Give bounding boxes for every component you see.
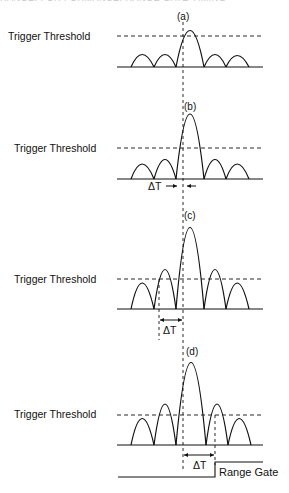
main-lobe <box>176 114 204 179</box>
lobe <box>131 419 154 446</box>
delta-t-label-d: ΔT <box>193 459 207 471</box>
lobe <box>226 164 249 179</box>
panel-a <box>117 31 263 68</box>
lobe <box>204 270 226 310</box>
main-lobe <box>176 363 206 446</box>
threshold-label-c: Trigger Threshold <box>14 273 96 285</box>
lobe <box>204 160 226 180</box>
range-gate-label: Range Gate <box>219 466 278 478</box>
lobe <box>154 160 176 180</box>
lobe <box>131 164 154 179</box>
delta-t-label-c: ΔT <box>163 324 177 336</box>
lobe <box>226 56 249 68</box>
panel-label-a: (a) <box>177 11 189 22</box>
panel-d <box>117 363 263 478</box>
lobe <box>204 55 226 68</box>
threshold-label-d: Trigger Threshold <box>14 408 96 420</box>
panel-c <box>117 228 263 341</box>
lobe <box>131 55 154 68</box>
main-lobe <box>176 228 204 310</box>
lobe <box>154 270 176 310</box>
lobe <box>226 283 249 309</box>
lobe <box>154 404 176 445</box>
lobe <box>131 283 154 309</box>
panel-label-c: (c) <box>184 210 196 221</box>
trigger-timing-diagram: (a) Trigger Threshold (b) Trigger Thresh… <box>0 0 289 493</box>
lobe <box>228 419 251 446</box>
panel-b <box>117 114 263 188</box>
panel-label-b: (b) <box>184 101 196 112</box>
lobe <box>206 404 228 445</box>
lobe <box>154 55 176 68</box>
threshold-label-a: Trigger Threshold <box>8 30 90 42</box>
threshold-label-b: Trigger Threshold <box>14 142 96 154</box>
panel-label-d: (d) <box>186 346 198 357</box>
delta-t-label-b: ΔT <box>148 180 162 192</box>
